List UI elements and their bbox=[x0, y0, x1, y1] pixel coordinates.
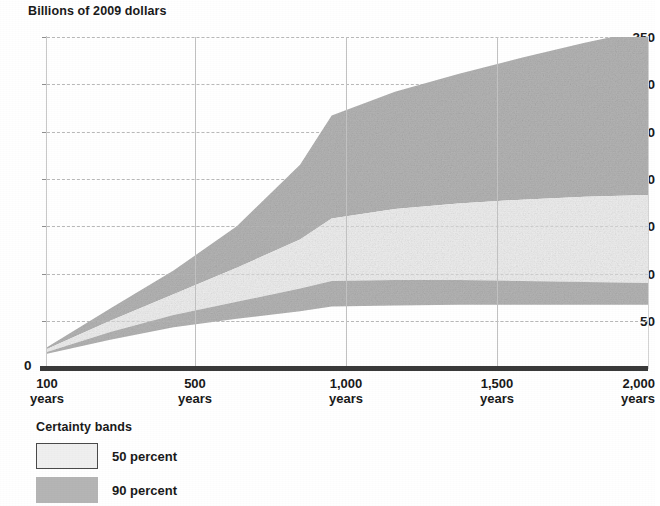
x-tick-unit-1000: years bbox=[312, 391, 380, 406]
x-axis-line bbox=[40, 366, 648, 371]
x-tick-label-100: 100 years bbox=[17, 376, 77, 406]
x-tick-unit-2000: years bbox=[605, 391, 655, 406]
legend-swatch-90-icon bbox=[36, 477, 98, 503]
legend: Certainty bands 50 percent 90 percent bbox=[36, 420, 177, 506]
x-tick-label-1000: 1,000 years bbox=[312, 376, 380, 406]
legend-label-50: 50 percent bbox=[112, 449, 177, 464]
x-tick-unit-1500: years bbox=[463, 391, 531, 406]
legend-label-90: 90 percent bbox=[112, 483, 177, 498]
x-tick-label-2000: 2,000 years bbox=[605, 376, 660, 406]
y-tick-label-0: 0 bbox=[24, 358, 32, 373]
x-tick-label-1500: 1,500 years bbox=[463, 376, 531, 406]
gridline-x-1500 bbox=[497, 37, 498, 368]
legend-item-90: 90 percent bbox=[36, 477, 177, 503]
gridline-50-overlay bbox=[47, 321, 648, 322]
plot-right-spine bbox=[648, 36, 649, 369]
x-tick-unit-100: years bbox=[17, 391, 77, 406]
x-tick-value-100: 100 bbox=[17, 376, 77, 391]
x-tick-value-2000: 2,000 bbox=[605, 376, 655, 391]
gridline-150-overlay bbox=[47, 226, 648, 227]
legend-item-50: 50 percent bbox=[36, 443, 177, 469]
certainty-band-areas bbox=[47, 37, 648, 368]
x-tick-value-500: 500 bbox=[165, 376, 225, 391]
legend-title: Certainty bands bbox=[36, 420, 177, 434]
x-tick-unit-500: years bbox=[165, 391, 225, 406]
gridline-x-500 bbox=[195, 37, 196, 368]
gridline-x-1000 bbox=[346, 37, 347, 368]
legend-swatch-50-icon bbox=[36, 443, 98, 469]
y-axis-title: Billions of 2009 dollars bbox=[28, 4, 167, 18]
gridline-100-overlay bbox=[47, 274, 648, 275]
x-tick-label-500: 500 years bbox=[165, 376, 225, 406]
x-tick-value-1500: 1,500 bbox=[463, 376, 531, 391]
x-tick-value-1000: 1,000 bbox=[312, 376, 380, 391]
